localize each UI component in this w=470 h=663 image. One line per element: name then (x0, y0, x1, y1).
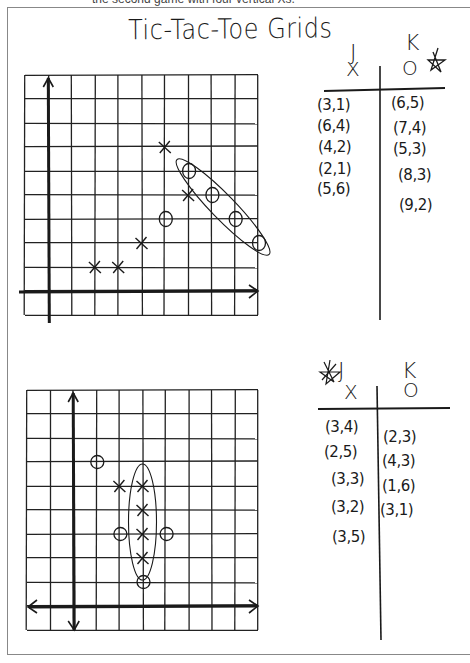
game-1-o-move: (6,5) (391, 94, 424, 112)
game-1-o-player-symbol: O (402, 56, 418, 80)
game-2-x-player-symbol: X (344, 380, 358, 404)
star-mark-icon (428, 48, 445, 72)
game-2-o-player-symbol: O (403, 378, 419, 402)
game-2-x-move: (2,5) (324, 443, 357, 461)
game-1-o-move: (7,4) (393, 119, 426, 137)
game-1-o-player-name: K (405, 30, 419, 55)
caption-clip: the second game with four vertical Xs. (0, 0, 470, 7)
game-1-x-move: (6,4) (317, 117, 350, 135)
game-1-x-move: (2,1) (318, 160, 351, 178)
game-1-o-move: (5,3) (393, 140, 426, 158)
axes (19, 78, 258, 323)
game-2-x-move: (3,2) (331, 498, 364, 516)
grid-lines (24, 75, 258, 316)
game-1-x-player-symbol: X (346, 57, 360, 81)
game-2-o-move: (1,6) (382, 477, 415, 495)
game-2-o-move: (3,1) (380, 501, 413, 519)
cut-off-caption: the second game with four vertical Xs. (92, 0, 295, 6)
game-2-x-move: (3,5) (332, 528, 365, 546)
game-2-grid (20, 383, 276, 645)
scribbled-star-icon (320, 360, 340, 384)
game-2-o-move: (4,3) (382, 452, 415, 470)
game-2-o-move: (2,3) (383, 428, 416, 446)
game-1-grid (18, 68, 274, 330)
game-1-o-move: (8,3) (398, 166, 431, 184)
game-2-x-move: (3,3) (331, 470, 364, 488)
game-1-o-move: (9,2) (399, 196, 432, 214)
game-2-x-move: (3,4) (325, 418, 358, 436)
game-1-x-move: (4,2) (318, 138, 351, 156)
game-1-x-move: (5,6) (317, 180, 350, 198)
game-1-x-move: (3,1) (317, 96, 350, 114)
